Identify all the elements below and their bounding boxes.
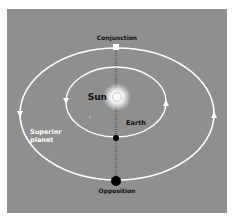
superior-planet-orbit (20, 48, 214, 180)
planet-at-conjunction-icon (113, 44, 119, 50)
inner-orbit-arrow-left-icon (63, 98, 69, 104)
inner-orbit-arrow-right-icon (163, 100, 169, 106)
sun-glow (103, 83, 131, 111)
planet-at-opposition-icon (111, 176, 121, 186)
superior-planet-label-line1: Superior (30, 128, 62, 136)
outer-orbit-arrow-left-icon (17, 111, 23, 118)
conjunction-label: Conjunction (97, 34, 137, 42)
earth-label: Earth (126, 119, 146, 127)
orbit-diagram: Conjunction Sun Earth Superior planet Op… (0, 0, 234, 222)
star-dot (89, 116, 91, 118)
sun-label: Sun (88, 92, 107, 102)
earth-icon (113, 135, 119, 141)
superior-planet-label-line2: planet (30, 136, 53, 144)
outer-orbit-arrow-right-icon (211, 111, 217, 118)
opposition-label: Opposition (99, 187, 136, 195)
